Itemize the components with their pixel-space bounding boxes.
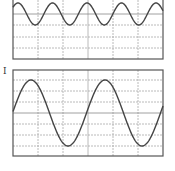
scope-panel-bottom (13, 70, 163, 156)
scope-panel-top (13, 0, 163, 59)
oscilloscope-figure (0, 0, 175, 171)
panel-label-current: I (3, 67, 7, 76)
